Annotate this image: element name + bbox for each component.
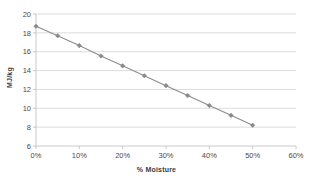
y-tick-label: 10 [23,104,31,113]
y-tick-label: 18 [23,29,31,38]
data-point-marker [207,103,212,108]
data-point-marker [164,83,169,88]
y-tick-label: 20 [23,10,31,19]
data-point-marker [142,73,147,78]
data-series [34,24,255,128]
data-point-marker [34,24,39,29]
x-axis-title-label: % Moisture [137,166,176,173]
y-tick-label: 12 [23,85,31,94]
y-tick-label: 8 [27,123,31,132]
x-tick-label: 30% [158,151,173,160]
y-axis-tick-labels: 68101214161820 [23,10,31,151]
x-tick-label: 10% [72,151,87,160]
gridlines [36,14,296,127]
axis-ticks [33,14,296,149]
data-point-marker [77,43,82,48]
x-axis-title: % Moisture [0,166,313,173]
y-tick-label: 16 [23,47,31,56]
x-axis-tick-labels: 0%10%20%30%40%50%60% [31,151,304,160]
y-tick-label: 14 [23,66,31,75]
data-point-marker [55,33,60,38]
x-tick-label: 60% [288,151,303,160]
x-tick-label: 0% [31,151,42,160]
line-chart-plot: 68101214161820 0%10%20%30%40%50%60% [0,0,313,185]
axis-lines [36,14,296,146]
data-point-marker [229,113,234,118]
x-tick-label: 20% [115,151,130,160]
x-tick-label: 40% [202,151,217,160]
y-tick-label: 6 [27,142,31,151]
x-tick-label: 50% [245,151,260,160]
data-point-marker [185,93,190,98]
data-point-marker [99,54,104,59]
chart-container: MJ/kg 68101214161820 0%10%20%30%40%50%60… [0,0,313,185]
data-point-marker [120,64,125,69]
